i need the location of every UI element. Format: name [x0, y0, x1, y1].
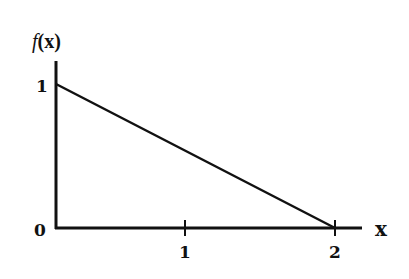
x-tick-label-1: 1 — [179, 242, 191, 262]
x-tick-label-2: 2 — [329, 242, 341, 262]
data-line-f — [56, 84, 335, 228]
chart-canvas: f(x) 1 0 1 2 x — [0, 0, 409, 279]
y-axis-label: f(x) — [32, 30, 61, 53]
x-axis-label: x — [375, 217, 388, 241]
origin-label: 0 — [34, 220, 46, 240]
y-tick-label-1: 1 — [36, 76, 48, 96]
